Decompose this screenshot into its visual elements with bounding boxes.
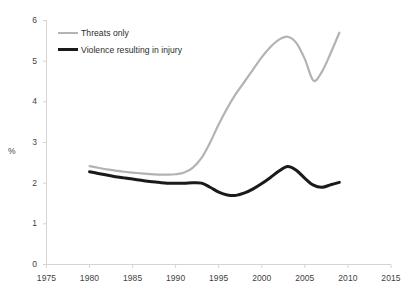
x-tick-2000: 2000 [244, 273, 280, 283]
legend-swatch-icon-violence-resulting-in-injury [58, 48, 78, 51]
series-line-violence-resulting-in-injury [90, 166, 340, 195]
y-tick-4: 4 [15, 96, 37, 106]
x-tick-1990: 1990 [158, 273, 194, 283]
legend-swatch-icon-threats-only [58, 32, 78, 34]
x-tick-2015: 2015 [373, 273, 409, 283]
y-tick-5: 5 [15, 56, 37, 66]
x-tick-1980: 1980 [72, 273, 108, 283]
x-tick-2005: 2005 [287, 273, 323, 283]
legend-label-threats-only: Threats only [81, 28, 129, 38]
x-tick-1985: 1985 [115, 273, 151, 283]
y-tick-1: 1 [15, 218, 37, 228]
x-tick-1975: 1975 [29, 273, 65, 283]
y-axis-label: % [8, 146, 16, 156]
x-axis-ticks [47, 265, 392, 269]
legend-label-violence-resulting-in-injury: Violence resulting in injury [81, 45, 182, 55]
legend-item-threats-only: Threats only [58, 24, 182, 41]
line-chart: % 6 5 4 3 2 1 0 1975 1980 1985 1990 1995… [0, 0, 417, 301]
x-tick-2010: 2010 [330, 273, 366, 283]
legend-item-violence-resulting-in-injury: Violence resulting in injury [58, 41, 182, 58]
y-axis-ticks [43, 21, 47, 265]
y-tick-2: 2 [15, 178, 37, 188]
x-tick-1995: 1995 [201, 273, 237, 283]
y-tick-3: 3 [15, 137, 37, 147]
y-tick-6: 6 [15, 15, 37, 25]
chart-legend: Threats only Violence resulting in injur… [58, 24, 182, 58]
y-tick-0: 0 [15, 259, 37, 269]
